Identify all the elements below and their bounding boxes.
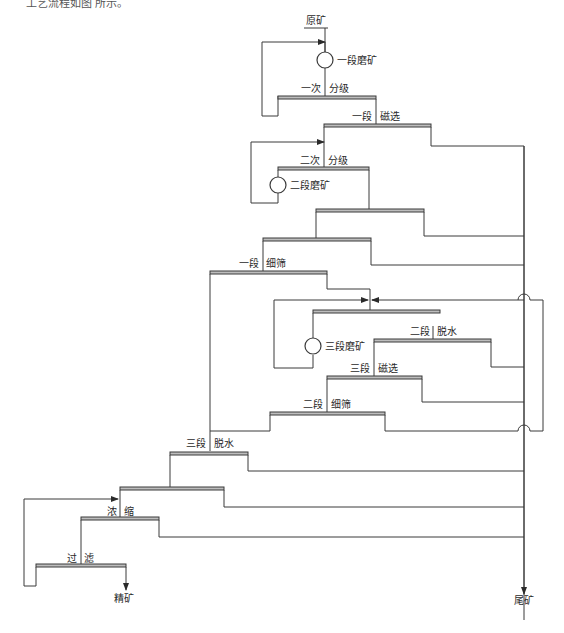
screen-class2: 二次 分级 二段磨矿 (251, 142, 369, 209)
svg-text:二段: 二段 (303, 398, 323, 410)
svg-text:二段: 二段 (410, 325, 430, 337)
mill-icon (317, 52, 333, 68)
mill-icon (305, 338, 321, 354)
mag-separator-bar (263, 238, 371, 241)
svg-text:三段: 三段 (350, 362, 370, 374)
screen-magsep3: 三段 磁选 (327, 362, 524, 412)
filter-bar (36, 564, 126, 567)
svg-text:二次: 二次 (300, 154, 320, 166)
mag-separator-bar (316, 209, 424, 212)
thickener-bar (81, 517, 159, 520)
grind1-label: 一段磨矿 (337, 54, 377, 66)
svg-text:磁选: 磁选 (378, 362, 398, 374)
svg-text:三段磨矿: 三段磨矿 (325, 340, 365, 352)
svg-text:脱水: 脱水 (437, 325, 457, 337)
svg-text:浓: 浓 (107, 506, 117, 517)
svg-text:一段: 一段 (352, 110, 372, 122)
svg-text:一段: 一段 (239, 257, 259, 269)
dewater-bar (374, 339, 491, 342)
classifier-bar (313, 310, 440, 313)
classifier-bar (278, 96, 376, 99)
svg-text:分级: 分级 (328, 155, 348, 166)
classifier-bar (278, 167, 369, 170)
raw-ore-input: 原矿 (304, 14, 328, 52)
fine-screen-bar (270, 412, 385, 415)
svg-text:磁选: 磁选 (380, 110, 400, 122)
svg-text:分级: 分级 (329, 83, 349, 94)
svg-text:二段磨矿: 二段磨矿 (290, 179, 330, 191)
grind1-loop: 一段磨矿 (262, 42, 377, 116)
dewater-bar (170, 452, 248, 455)
screen-fine2: 二段 细筛 (210, 398, 518, 431)
fine-screen-bar (210, 271, 327, 274)
mag-separator-bar (324, 124, 431, 127)
svg-text:脱水: 脱水 (214, 437, 234, 449)
svg-text:缩: 缩 (124, 505, 134, 517)
svg-text:细筛: 细筛 (266, 257, 286, 269)
tailings-label: 尾矿 (514, 594, 534, 606)
screen-dewater3: 三段 脱水 (170, 437, 524, 487)
svg-text:细筛: 细筛 (331, 398, 351, 410)
mag-separator-bar (120, 487, 224, 490)
raw-ore-label: 原矿 (306, 14, 326, 26)
svg-text:滤: 滤 (84, 552, 94, 564)
svg-text:过: 过 (67, 552, 77, 564)
screen-mag-final (120, 487, 524, 517)
screen-mag2 (316, 209, 524, 238)
screen-fine1: 一段 细筛 (210, 257, 543, 451)
mag-separator-bar (327, 376, 422, 379)
process-flow-diagram: 原矿 一段磨矿 一次 分级 一段 磁选 二次 分级 二段磨矿 (0, 0, 564, 633)
svg-text:三段: 三段 (186, 437, 206, 449)
concentrate-label: 精矿 (114, 592, 134, 604)
screen-mag3 (263, 238, 524, 272)
svg-text:一次: 一次 (301, 82, 321, 94)
screen-thicken: 浓 缩 (81, 505, 524, 564)
mill-icon (270, 177, 286, 193)
